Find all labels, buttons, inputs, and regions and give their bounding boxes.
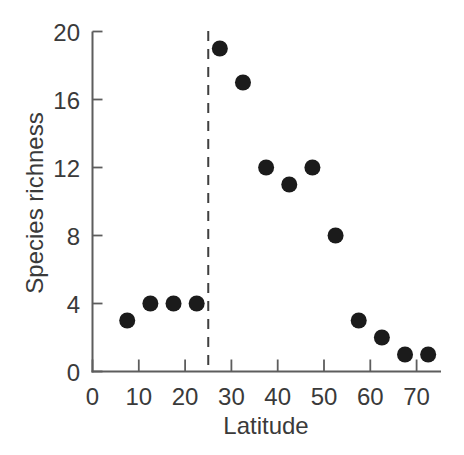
data-point — [258, 160, 274, 176]
data-point — [166, 296, 182, 312]
scatter-figure: 010203040506070048121620 Latitude Specie… — [0, 0, 464, 455]
x-tick-label: 50 — [311, 383, 338, 410]
data-point — [212, 41, 228, 57]
data-point — [351, 313, 367, 329]
y-axis-title: Species richness — [21, 112, 48, 293]
x-tick-label: 10 — [125, 383, 152, 410]
y-tick-label: 8 — [67, 223, 80, 250]
x-axis-title: Latitude — [223, 412, 308, 439]
x-tick-label: 20 — [172, 383, 199, 410]
x-tick-label: 30 — [218, 383, 245, 410]
y-tick-label: 16 — [53, 87, 80, 114]
data-point — [420, 347, 436, 363]
y-tick-label: 0 — [67, 359, 80, 386]
data-point — [235, 75, 251, 91]
data-point — [328, 228, 344, 244]
x-tick-label: 0 — [86, 383, 99, 410]
data-point — [304, 160, 320, 176]
data-point — [281, 177, 297, 193]
data-point — [397, 347, 413, 363]
data-point — [142, 296, 158, 312]
x-tick-label: 40 — [264, 383, 291, 410]
y-tick-label: 12 — [53, 155, 80, 182]
points-layer — [119, 41, 436, 363]
y-tick-label: 20 — [53, 19, 80, 46]
data-point — [119, 313, 135, 329]
x-tick-label: 60 — [357, 383, 384, 410]
x-tick-label: 70 — [403, 383, 430, 410]
y-tick-label: 4 — [67, 291, 80, 318]
data-point — [374, 330, 390, 346]
data-point — [189, 296, 205, 312]
latitude-species-richness-scatter: 010203040506070048121620 Latitude Specie… — [0, 0, 464, 455]
